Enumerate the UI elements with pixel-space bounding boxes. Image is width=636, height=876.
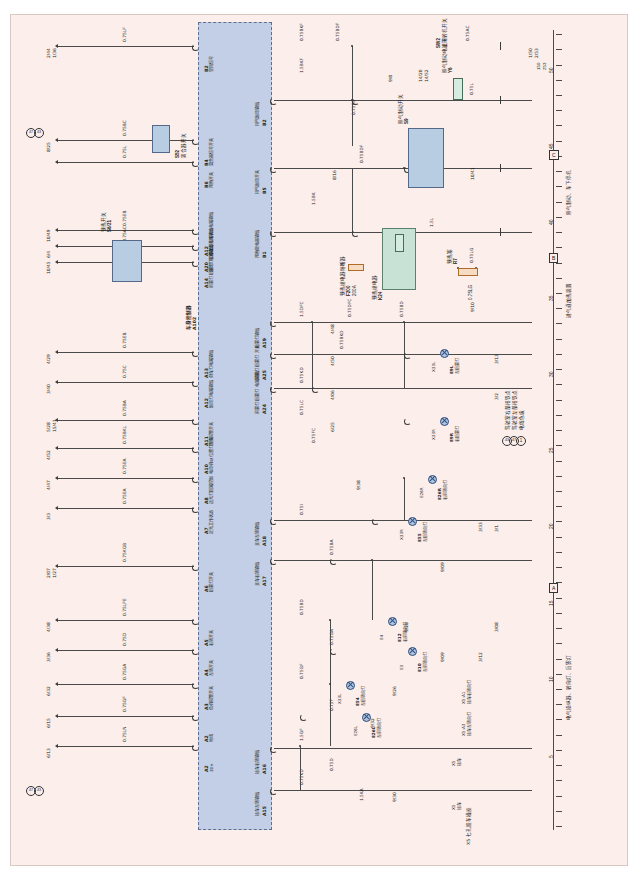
bus-link-1 xyxy=(352,168,353,232)
right-terminal-code-3: 8/16 xyxy=(332,170,337,180)
left-wire-label-10: 0.75EA xyxy=(122,458,127,474)
wire-spec-label-16: 0.75FC xyxy=(312,428,317,443)
wire-spec-label-14: 0.75KD xyxy=(300,367,305,383)
left-terminal-code-1: 8/25 xyxy=(46,142,51,152)
controller-left-pinlabel-10: 远光灯回路控制 xyxy=(210,476,215,504)
left-wire-label-3: 0.75EB xyxy=(122,210,127,226)
ruler-tick-label: 5 xyxy=(548,755,554,758)
right-terminal-code-12: 3/12 xyxy=(478,652,483,662)
terminal-bar-1 xyxy=(500,228,501,236)
left-terminal-code-8: 5/28 xyxy=(46,422,51,432)
connector-right-3 xyxy=(270,320,277,327)
connector-right-0 xyxy=(270,98,277,105)
arrow-left-16 xyxy=(55,714,58,718)
terminal-bar-3 xyxy=(500,42,501,50)
right-terminal-code-22: 9/38 xyxy=(356,480,361,490)
ruler-end-code-1: 253 xyxy=(542,63,547,70)
switch-S52[interactable] xyxy=(152,125,170,153)
right-terminal-code-10: 9/09 xyxy=(440,562,445,572)
ruler-tick-label: 15 xyxy=(548,600,554,606)
switch-S52-label: 离合器开关 xyxy=(181,133,186,158)
ruler-tick xyxy=(556,796,562,797)
left-wire-label-11: 0.75EA xyxy=(122,488,127,504)
right-terminal-code-5: 9/10 xyxy=(470,302,475,312)
arrow-left-7 xyxy=(55,380,58,384)
wire-left-9 xyxy=(58,448,194,449)
inline-connector-0 xyxy=(352,98,359,105)
solenoid-Y6-label: 排气制动电磁阀 xyxy=(442,38,447,73)
wire-spec-label-23: 1.5GF xyxy=(300,728,305,741)
ruler-tick xyxy=(556,141,562,142)
arrow-left-11 xyxy=(55,506,58,510)
left-terminal-code-9: 4/52 xyxy=(46,450,51,460)
lamp-conn-6: X33L xyxy=(338,694,343,704)
section-title-A: 电气操纵器、转向灯、后雾灯 xyxy=(566,655,571,720)
switch-S6-21-id: S6/21 xyxy=(107,220,112,232)
ruler-tick xyxy=(556,247,562,248)
lamp-label-1: 右后雾灯 xyxy=(456,426,461,442)
inline-connector-5 xyxy=(372,518,379,525)
wire-left-7 xyxy=(58,382,194,383)
right-terminal-code-18: 4/48 xyxy=(330,324,335,334)
ruler-tick xyxy=(556,34,562,35)
right-terminal-code-8: 3/1 xyxy=(494,525,499,532)
right-terminal-code-13: 9/09 xyxy=(440,652,445,662)
legend-item-1: 驾驶室左部搭铁点 xyxy=(512,390,517,430)
switch-S6-21[interactable] xyxy=(112,240,142,282)
ruler-tick xyxy=(556,826,562,827)
ruler-tick xyxy=(556,202,562,203)
ruler-tick xyxy=(556,506,562,507)
right-terminal-code-0: 1/50 xyxy=(528,48,533,58)
lamp-conn-3: X33R xyxy=(400,529,405,540)
ruler-tick xyxy=(556,461,562,462)
ground-marker-43-bottom: 43 xyxy=(34,786,44,796)
left-terminal-code2-0: 1/36 xyxy=(52,48,57,58)
ruler-tick-label: 40 xyxy=(548,219,554,225)
left-wire-label-9: 0.75BKL xyxy=(122,426,127,444)
left-terminal-code-12: 2/07 xyxy=(46,568,51,578)
left-terminal-code-5: 10/45 xyxy=(46,261,51,274)
left-terminal-code-13: 4/38 xyxy=(46,622,51,632)
bus-link-7 xyxy=(300,746,301,790)
controller-right-pinlabel-8: 挂车右转输出 xyxy=(256,750,261,774)
controller-id: A102 xyxy=(192,317,197,330)
switch-S9[interactable] xyxy=(408,128,444,188)
arrow-left-3 xyxy=(55,228,58,232)
right-terminal-code-17: 9/30 xyxy=(392,792,397,802)
ruler-tick xyxy=(556,598,562,599)
left-wire-label-6: 0.75EB xyxy=(122,332,127,348)
wire-spec-label-9: 0.75LG xyxy=(470,248,475,263)
left-terminal-code-6: 4/29 xyxy=(46,354,51,364)
controller-right-pin-7: A17 xyxy=(262,576,267,586)
lamp-E10 xyxy=(408,647,417,656)
switch-S9-id: S9 xyxy=(404,118,409,124)
lamp-label-5: 左前转向灯 xyxy=(424,652,429,672)
right-terminal-code-9: 3/33 xyxy=(478,522,483,532)
wire-spec-label-13: 0.75BKD xyxy=(340,330,345,349)
ruler-tick xyxy=(556,278,562,279)
legend-mark-2: 43 xyxy=(502,436,512,446)
inline-connector-9 xyxy=(312,386,319,393)
connector-right-2 xyxy=(270,230,277,237)
lamp-E9R xyxy=(440,417,449,426)
lamp-E55 xyxy=(408,517,417,526)
connector-left-5 xyxy=(192,260,199,267)
connector-left-12 xyxy=(192,564,199,571)
fuse-F200 xyxy=(348,264,364,271)
arrow-left-4 xyxy=(55,244,58,248)
section-title-B: 进气道加热装置 xyxy=(566,283,571,318)
trailer-pin-label-0: 挂车 xyxy=(458,802,463,810)
ruler-tick xyxy=(556,445,562,446)
connector-left-8 xyxy=(192,418,199,425)
lamp-label-3: 左后转向灯 xyxy=(424,522,429,542)
wire-left-6 xyxy=(58,352,194,353)
wire-right-6 xyxy=(274,520,532,521)
lamp-E26R xyxy=(428,475,437,484)
wire-left-2 xyxy=(58,162,194,163)
controller-left-pinlabel-2: 预热开关 xyxy=(210,172,215,188)
wire-spec-label-2: 0.75AC xyxy=(466,26,471,41)
right-terminal-code-4: 10/41 xyxy=(470,167,475,180)
wire-spec-label-1: 0.75BDF xyxy=(336,23,341,41)
ruler-tick xyxy=(556,354,562,355)
inline-connector-3 xyxy=(404,352,411,359)
